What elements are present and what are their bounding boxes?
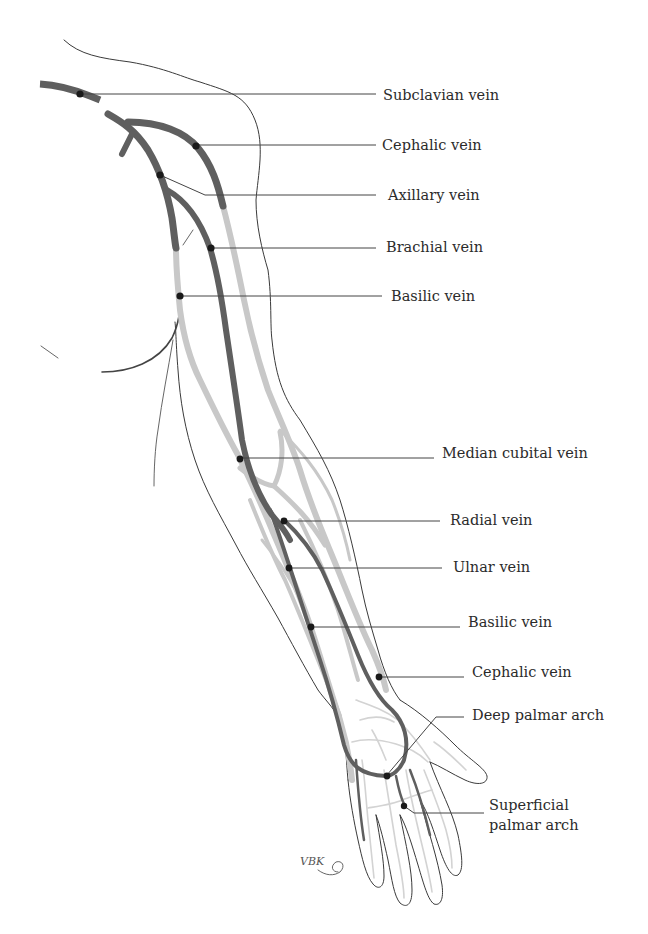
marker-basilic-lower — [308, 624, 315, 631]
marker-superficial-palmar-arch — [401, 803, 407, 809]
label-cephalic-vein-upper: Cephalic vein — [382, 137, 482, 153]
label-median-cubital-vein: Median cubital vein — [442, 445, 588, 461]
label-radial-vein: Radial vein — [450, 512, 532, 528]
label-cephalic-vein-lower: Cephalic vein — [472, 664, 572, 680]
label-basilic-vein-lower: Basilic vein — [468, 614, 552, 630]
deep-veins — [40, 84, 430, 840]
superficial-veins — [176, 206, 466, 898]
label-basilic-vein-upper: Basilic vein — [391, 288, 475, 304]
label-brachial-vein: Brachial vein — [386, 239, 483, 255]
label-superficial-palmar-arch-line2: palmar arch — [489, 817, 579, 833]
marker-deep-palmar-arch — [384, 773, 391, 780]
label-subclavian-vein: Subclavian vein — [383, 87, 499, 103]
marker-radial — [281, 518, 288, 525]
artist-signature: VBK — [300, 855, 324, 868]
marker-brachial — [207, 244, 214, 251]
marker-axillary — [156, 171, 163, 178]
marker-cephalic-lower — [376, 674, 383, 681]
vein-diagram — [0, 0, 648, 934]
marker-cephalic-upper — [192, 142, 199, 149]
marker-basilic-upper — [176, 292, 183, 299]
arm-outline — [41, 40, 487, 905]
label-superficial-palmar-arch-line1: Superficial — [489, 797, 569, 813]
label-deep-palmar-arch: Deep palmar arch — [472, 707, 604, 723]
label-axillary-vein: Axillary vein — [388, 187, 480, 203]
marker-median-cubital — [237, 456, 244, 463]
marker-subclavian — [76, 90, 83, 97]
marker-ulnar — [286, 565, 293, 572]
label-ulnar-vein: Ulnar vein — [453, 559, 530, 575]
